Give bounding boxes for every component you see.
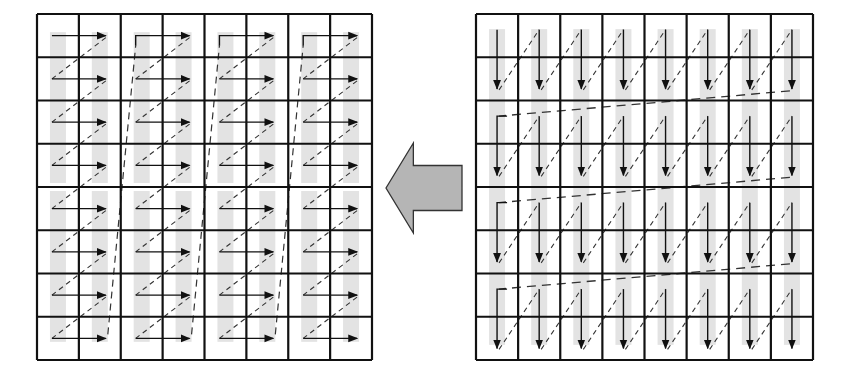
- transform-arrow-shape: [386, 143, 462, 233]
- gray-strip: [176, 32, 192, 183]
- gray-strip: [134, 191, 150, 342]
- gray-strip: [134, 32, 150, 183]
- gray-strip: [92, 32, 108, 183]
- right-grid-vertical-scan: [476, 14, 813, 360]
- gray-strip: [92, 191, 108, 342]
- scan-order-diagram: [0, 0, 843, 378]
- left-block-arrow-icon: [386, 143, 462, 233]
- gray-strip: [343, 32, 359, 183]
- gray-strip: [176, 191, 192, 342]
- gray-strip: [217, 32, 233, 183]
- gray-strip: [259, 191, 275, 342]
- left-grid-horizontal-scan: [37, 14, 372, 360]
- gray-strip: [343, 191, 359, 342]
- gray-strip: [50, 191, 66, 342]
- gray-strip: [301, 32, 317, 183]
- gray-strip: [50, 32, 66, 183]
- gray-strip: [301, 191, 317, 342]
- gray-strip: [259, 32, 275, 183]
- gray-strip: [217, 191, 233, 342]
